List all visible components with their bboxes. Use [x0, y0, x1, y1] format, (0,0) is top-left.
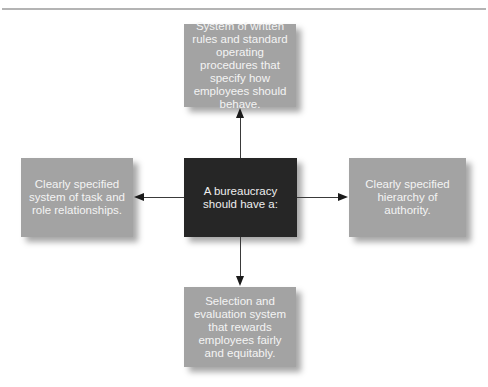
node-right-text: Clearly specified hierarchy of authority…: [357, 178, 458, 217]
node-left-task-role-relationships: Clearly specified system of task and rol…: [21, 158, 133, 237]
arrow-right-line: [297, 197, 339, 198]
arrowhead-right-icon: [338, 193, 348, 201]
arrowhead-left-icon: [134, 193, 144, 201]
arrow-down-line: [240, 237, 241, 277]
arrowhead-up-icon: [236, 108, 244, 118]
arrowhead-down-icon: [236, 276, 244, 286]
node-center-bureaucracy: A bureaucracy should have a:: [184, 158, 297, 237]
node-bottom-selection-evaluation: Selection and evaluation system that rew…: [184, 287, 296, 367]
node-top-written-rules: System of written rules and standard ope…: [184, 24, 296, 107]
arrow-left-line: [143, 197, 184, 198]
arrow-up-line: [240, 117, 241, 158]
node-right-hierarchy-of-authority: Clearly specified hierarchy of authority…: [349, 158, 466, 237]
node-left-text: Clearly specified system of task and rol…: [29, 178, 125, 217]
node-top-text: System of written rules and standard ope…: [192, 20, 288, 111]
node-bottom-text: Selection and evaluation system that rew…: [192, 295, 288, 360]
top-divider-rule: [2, 8, 486, 10]
node-center-text: A bureaucracy should have a:: [192, 185, 289, 211]
